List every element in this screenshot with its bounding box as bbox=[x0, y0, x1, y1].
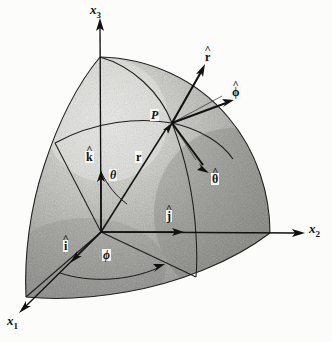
unit-vector-label-k-hat: ^ k bbox=[85, 151, 94, 163]
axis-label-x3: x3 bbox=[90, 3, 101, 20]
unit-vector-label-i-hat: ^ i bbox=[63, 240, 68, 252]
angle-label-phi: ϕ bbox=[102, 249, 111, 261]
spherical-coordinates-figure: x3 x2 x1 P ^ r ^ ϕ ^ θ ^ k bbox=[0, 0, 332, 342]
theta-hat-glyph: ^ θ bbox=[212, 173, 218, 185]
hat-accent: ^ bbox=[204, 44, 210, 55]
r-hat-arrowhead bbox=[196, 64, 205, 77]
hat-accent: ^ bbox=[62, 233, 68, 244]
hat-accent: ^ bbox=[86, 144, 92, 155]
axis-label-x2: x2 bbox=[309, 222, 320, 239]
unit-vector-label-theta-hat: ^ θ bbox=[211, 173, 219, 185]
unit-vector-label-r-hat: ^ r bbox=[204, 51, 211, 63]
angle-label-theta: θ bbox=[109, 169, 117, 181]
unit-vector-label-j-hat: ^ j bbox=[166, 210, 172, 222]
sphere-octant-surface bbox=[6, 50, 310, 318]
hat-accent: ^ bbox=[166, 203, 172, 214]
unit-vector-label-phi-hat: ^ ϕ bbox=[231, 86, 241, 98]
r-hat-glyph: ^ r bbox=[205, 51, 210, 63]
point-label-P: P bbox=[150, 109, 159, 121]
i-hat-glyph: ^ i bbox=[64, 240, 67, 252]
k-hat-glyph: ^ k bbox=[86, 151, 93, 163]
hat-accent: ^ bbox=[233, 79, 239, 90]
figure-canvas bbox=[0, 0, 332, 342]
position-vector-label-r: r bbox=[135, 151, 142, 163]
j-hat-glyph: ^ j bbox=[167, 210, 171, 222]
phi-hat-glyph: ^ ϕ bbox=[232, 86, 240, 98]
hat-accent: ^ bbox=[212, 166, 218, 177]
axis-label-x1: x1 bbox=[7, 314, 18, 331]
